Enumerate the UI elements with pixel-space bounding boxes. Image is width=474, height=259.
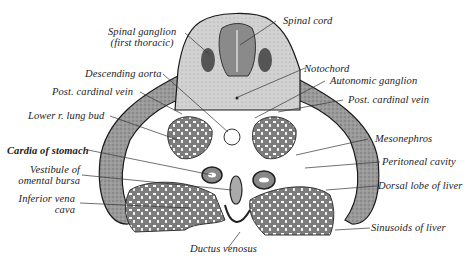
label-lower-lung-bud: Lower r. lung bud — [28, 110, 104, 121]
label-autonomic-ganglion: Autonomic ganglion — [330, 75, 417, 86]
label-inferior-vena-cava: Inferior vena cava — [8, 193, 75, 215]
lung-bud-left — [168, 117, 212, 159]
label-post-cardinal-vein-right: Post. cardinal vein — [348, 94, 429, 105]
label-post-cardinal-vein-left: Post. cardinal vein — [52, 86, 133, 97]
label-spinal-cord: Spinal cord — [283, 15, 332, 26]
label-descending-aorta: Descending aorta — [85, 68, 162, 79]
label-spinal-ganglion-line1: Spinal ganglion — [108, 26, 176, 37]
liver-right-lobe — [250, 187, 334, 235]
visceral-region — [125, 117, 333, 235]
label-spinal-ganglion-line2: (first thoracic) — [108, 37, 176, 48]
cross-section-illustration — [0, 0, 474, 259]
dorsal-region — [175, 13, 300, 110]
label-peritoneal-cavity: Peritoneal cavity — [382, 156, 456, 167]
aorta-lumen — [224, 129, 240, 145]
label-ivc-line1: Inferior vena — [8, 193, 75, 204]
spinal-ganglion-right-shape — [258, 48, 272, 72]
label-dorsal-lobe-liver: Dorsal lobe of liver — [378, 180, 463, 191]
embryo-cross-section-figure: Spinal ganglion (first thoracic) Spinal … — [0, 0, 474, 259]
label-vestibule-omental-bursa: Vestibule of omental bursa — [8, 164, 80, 186]
label-ductus-venosus: Ductus venosus — [190, 243, 257, 254]
label-ivc-line2: cava — [8, 204, 75, 215]
lung-bud-right — [252, 117, 296, 159]
label-cardia-of-stomach: Cardia of stomach — [7, 145, 89, 156]
label-vestibule-line2: omental bursa — [8, 175, 80, 186]
label-spinal-ganglion: Spinal ganglion (first thoracic) — [108, 26, 176, 48]
label-notochord: Notochord — [304, 63, 349, 74]
label-vestibule-line1: Vestibule of — [8, 164, 80, 175]
spinal-ganglion-left-shape — [201, 48, 215, 72]
label-sinusoids-of-liver: Sinusoids of liver — [371, 222, 446, 233]
label-mesonephros: Mesonephros — [375, 133, 432, 144]
ductus-venosus-shape — [225, 205, 250, 222]
